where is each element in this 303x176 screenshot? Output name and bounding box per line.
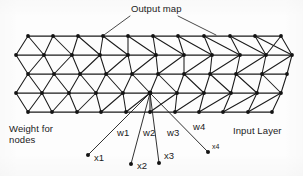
input-layer-label: Input Layer — [233, 126, 282, 137]
weight-label-w4: w4 — [193, 122, 205, 133]
lattice-diagonals-band-2 — [16, 55, 292, 74]
weight-for-nodes-label-line2: nodes — [9, 135, 35, 146]
weight-label-w1: w1 — [117, 128, 129, 139]
lattice-diagonals-band-4 — [16, 93, 281, 112]
input-label-x4: x4 — [212, 143, 220, 151]
input-node-x3 — [157, 161, 161, 165]
lattice-diagonals-band-3 — [16, 74, 287, 93]
input-nodes — [86, 150, 210, 166]
input-node-x1 — [86, 153, 90, 157]
input-node-x2 — [129, 162, 133, 166]
input-node-x4 — [206, 150, 210, 154]
som-diagram-figure: .edge { stroke:#1b1b1b; stroke-width:1.0… — [0, 0, 303, 176]
weight-label-w2: w2 — [143, 128, 155, 139]
input-label-x1: x1 — [94, 153, 104, 164]
lattice-drawing: .edge { stroke:#1b1b1b; stroke-width:1.0… — [0, 0, 303, 176]
weight-label-w3: w3 — [167, 128, 179, 139]
lattice-diagonals-band-1 — [16, 36, 292, 55]
input-label-x3: x3 — [164, 151, 174, 162]
input-label-x2: x2 — [137, 161, 147, 172]
output-map-leader-lines — [104, 16, 216, 35]
output-map-label: Output map — [131, 4, 182, 15]
